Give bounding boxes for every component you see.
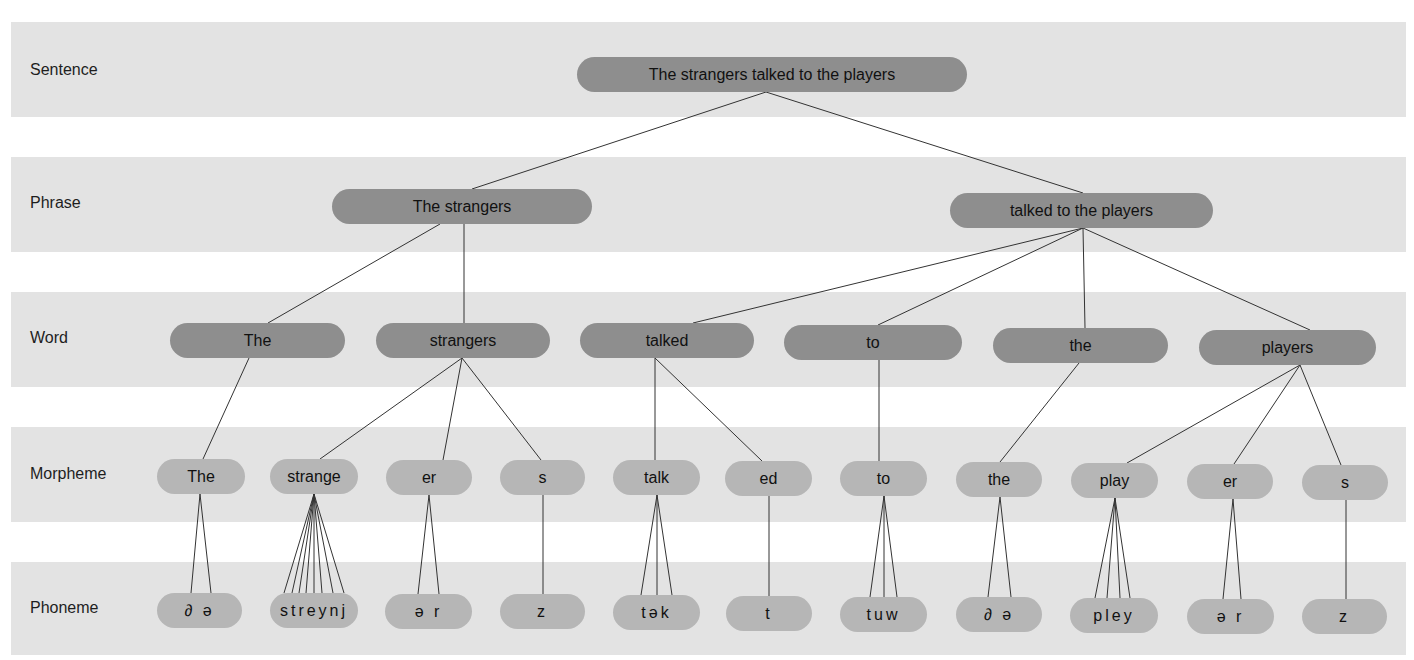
connector-line [884,496,897,597]
phoneme-node: t [726,596,812,631]
morpheme-node: s [500,460,585,495]
phrase-node: The strangers [332,189,592,224]
connector-line [1233,499,1241,599]
phoneme-node: ∂ ə [157,593,242,628]
connector-line [443,358,462,460]
morpheme-node: the [956,462,1042,497]
phoneme-node: tuw [840,597,927,632]
connector-line [191,494,200,593]
phoneme-node: pley [1070,598,1158,633]
connector-line [462,358,541,460]
morpheme-node: er [1187,464,1273,499]
connector-line [418,495,429,594]
morpheme-node: play [1071,463,1158,498]
connector-line [655,358,762,461]
connector-line [320,358,462,459]
connector-line [988,497,1000,597]
connector-line [870,496,884,597]
connector-line [203,358,249,459]
word-node: players [1199,330,1376,365]
connector-line [314,494,333,593]
connector-line [1234,365,1300,464]
morpheme-node: s [1302,465,1388,500]
connector-line [878,228,1083,325]
connector-line [1107,498,1115,598]
connector-line [1223,499,1233,599]
morpheme-node: The [157,459,245,494]
connector-line [200,494,211,593]
word-node: to [784,325,962,360]
connector-line [1083,228,1085,328]
morpheme-node: to [840,461,927,496]
connector-line [657,495,672,595]
connector-line [1000,363,1079,462]
connector-line [1127,365,1300,463]
connector-line [693,228,1083,323]
morpheme-node: er [386,460,472,495]
sentence-node: The strangers talked to the players [577,57,967,92]
phoneme-node: z [1302,599,1387,634]
connector-line [268,224,440,323]
phoneme-node: streynj [270,593,358,628]
connector-line [1083,228,1310,330]
phoneme-node: ∂ ə [956,597,1042,632]
morpheme-node: strange [270,459,358,494]
connector-line [766,92,1083,193]
word-node: the [993,328,1168,363]
connector-line [1095,498,1115,598]
phoneme-node: ə r [1187,599,1274,634]
word-node: talked [580,323,754,358]
connector-line [292,494,314,593]
connector-line [641,495,657,595]
word-node: The [170,323,345,358]
connector-line [299,494,314,593]
phrase-node: talked to the players [950,193,1213,228]
phoneme-node: tək [613,595,700,630]
connector-line [472,92,766,189]
phoneme-node: ə r [385,594,472,629]
phoneme-node: z [500,594,585,629]
connector-line [1000,497,1011,597]
morpheme-node: talk [613,460,700,495]
connector-line [429,495,439,594]
connector-line [1300,365,1341,465]
word-node: strangers [376,323,550,358]
morpheme-node: ed [725,461,812,496]
